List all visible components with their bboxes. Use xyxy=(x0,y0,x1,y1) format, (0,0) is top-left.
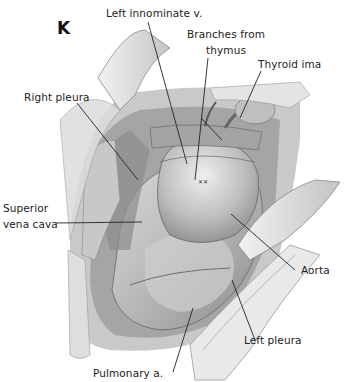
label-branches-line2: thymus xyxy=(181,44,271,57)
label-pulmonary-artery: Pulmonary a. xyxy=(93,367,163,380)
label-thyroid-ima: Thyroid ima xyxy=(258,58,321,71)
label-left-innominate-vein: Left innominate v. xyxy=(106,7,202,20)
anatomical-illustration: ✕✕ xyxy=(0,0,345,382)
label-svc-line1: Superior xyxy=(3,202,58,215)
label-left-pleura: Left pleura xyxy=(244,334,302,347)
label-aorta: Aorta xyxy=(301,264,330,277)
panel-letter: K xyxy=(57,18,70,38)
label-svc-line2: vena cava xyxy=(3,218,58,231)
label-branches-line1: Branches from xyxy=(181,28,271,41)
aorta xyxy=(158,140,259,243)
svg-text:✕✕: ✕✕ xyxy=(198,178,208,185)
label-right-pleura: Right pleura xyxy=(24,91,90,104)
label-superior-vena-cava: Superior vena cava xyxy=(3,202,58,231)
label-branches-from-thymus: Branches from thymus xyxy=(181,28,271,57)
